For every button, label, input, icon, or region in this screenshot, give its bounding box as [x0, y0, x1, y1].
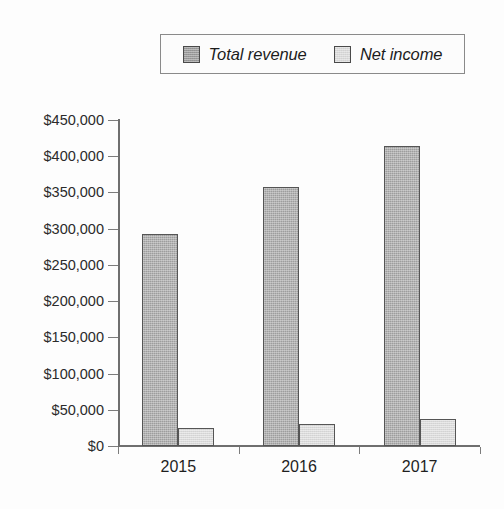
y-axis-tick-label: $150,000 [8, 329, 104, 345]
legend-label-net-income: Net income [360, 45, 442, 64]
revenue-swatch-icon [183, 46, 200, 63]
y-axis-tick-mark [108, 446, 118, 447]
y-axis-tick-labels: $0$50,000$100,000$150,000$200,000$250,00… [0, 0, 104, 509]
y-axis-tick-label: $300,000 [8, 221, 104, 237]
y-axis-tick-mark [108, 301, 118, 302]
plot-area [118, 120, 480, 446]
y-axis-tick-mark [108, 374, 118, 375]
bar-total-revenue-2017 [384, 146, 420, 446]
legend-label-total-revenue: Total revenue [209, 45, 307, 64]
bar-net-income-2016 [299, 424, 335, 446]
legend-item-net-income[interactable]: Net income [334, 45, 442, 64]
y-axis-tick-label: $400,000 [8, 148, 104, 164]
x-axis-label-2017: 2017 [375, 458, 465, 476]
bar-total-revenue-2016 [263, 187, 299, 446]
bar-net-income-2017 [420, 419, 456, 446]
y-axis-tick-label: $200,000 [8, 293, 104, 309]
y-axis-tick-label: $0 [8, 438, 104, 454]
x-axis-tick-mark [480, 447, 481, 454]
legend-item-total-revenue[interactable]: Total revenue [183, 45, 307, 64]
x-axis-tick-mark [118, 447, 119, 454]
y-axis-tick-label: $50,000 [8, 402, 104, 418]
bar-total-revenue-2015 [142, 234, 178, 446]
x-axis-tick-mark [239, 447, 240, 454]
y-axis-tick-mark [108, 192, 118, 193]
y-axis-tick-mark [108, 156, 118, 157]
y-axis-tick-mark [108, 265, 118, 266]
bar-net-income-2015 [178, 428, 214, 446]
y-axis-tick-mark [108, 120, 118, 121]
bar-chart: Total revenue Net income $0$50,000$100,0… [0, 0, 504, 509]
y-axis-tick-label: $250,000 [8, 257, 104, 273]
chart-legend: Total revenue Net income [160, 34, 465, 74]
y-axis-tick-label: $350,000 [8, 184, 104, 200]
y-axis-tick-mark [108, 410, 118, 411]
x-axis-tick-mark [359, 447, 360, 454]
x-axis-label-2016: 2016 [254, 458, 344, 476]
y-axis-tick-label: $100,000 [8, 366, 104, 382]
net-income-swatch-icon [334, 46, 351, 63]
y-axis-tick-label: $450,000 [8, 112, 104, 128]
y-axis-tick-mark [108, 337, 118, 338]
y-axis-tick-mark [108, 229, 118, 230]
x-axis-label-2015: 2015 [133, 458, 223, 476]
